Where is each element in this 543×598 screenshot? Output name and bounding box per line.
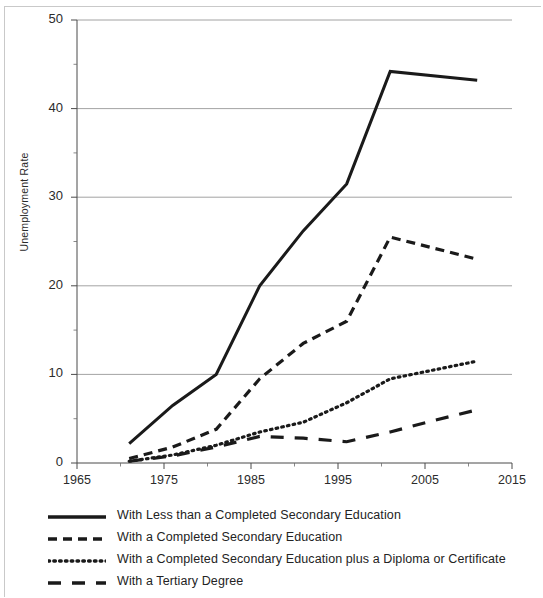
y-tick-label-50: 50 <box>29 11 63 26</box>
x-tick-label-1985: 1985 <box>226 473 276 487</box>
x-tick-label-1975: 1975 <box>139 473 189 487</box>
series-line-1 <box>129 71 477 443</box>
legend-swatch-dotted <box>48 553 106 565</box>
chart-canvas <box>0 0 543 500</box>
legend-item-1: With Less than a Completed Secondary Edu… <box>48 504 401 526</box>
y-tick-label-40: 40 <box>29 100 63 115</box>
series-line-4 <box>129 410 477 461</box>
unemployment-rate-line-chart: Unemployment Rate 0102030405019651975198… <box>0 0 543 598</box>
series-line-3 <box>129 361 477 461</box>
legend-label-1: With Less than a Completed Secondary Edu… <box>117 508 401 522</box>
chart-legend: With Less than a Completed Secondary Edu… <box>0 504 543 598</box>
y-tick-label-10: 10 <box>29 365 63 380</box>
y-tick-label-0: 0 <box>29 454 63 469</box>
legend-label-3: With a Completed Secondary Education plu… <box>117 552 506 566</box>
y-tick-label-20: 20 <box>29 277 63 292</box>
legend-item-4: With a Tertiary Degree <box>48 570 243 592</box>
plot-area: Unemployment Rate 0102030405019651975198… <box>0 0 543 500</box>
legend-item-2: With a Completed Secondary Education <box>48 526 342 548</box>
legend-swatch-solid <box>48 509 106 521</box>
legend-swatch-longdash <box>48 575 106 587</box>
legend-label-4: With a Tertiary Degree <box>117 574 243 588</box>
x-tick-label-2015: 2015 <box>487 473 537 487</box>
legend-swatch-dashed <box>48 531 106 543</box>
x-tick-label-1995: 1995 <box>313 473 363 487</box>
legend-item-3: With a Completed Secondary Education plu… <box>48 548 506 570</box>
legend-label-2: With a Completed Secondary Education <box>117 530 342 544</box>
x-tick-label-2005: 2005 <box>400 473 450 487</box>
series-line-2 <box>129 237 477 459</box>
y-tick-label-30: 30 <box>29 188 63 203</box>
x-tick-label-1965: 1965 <box>52 473 102 487</box>
